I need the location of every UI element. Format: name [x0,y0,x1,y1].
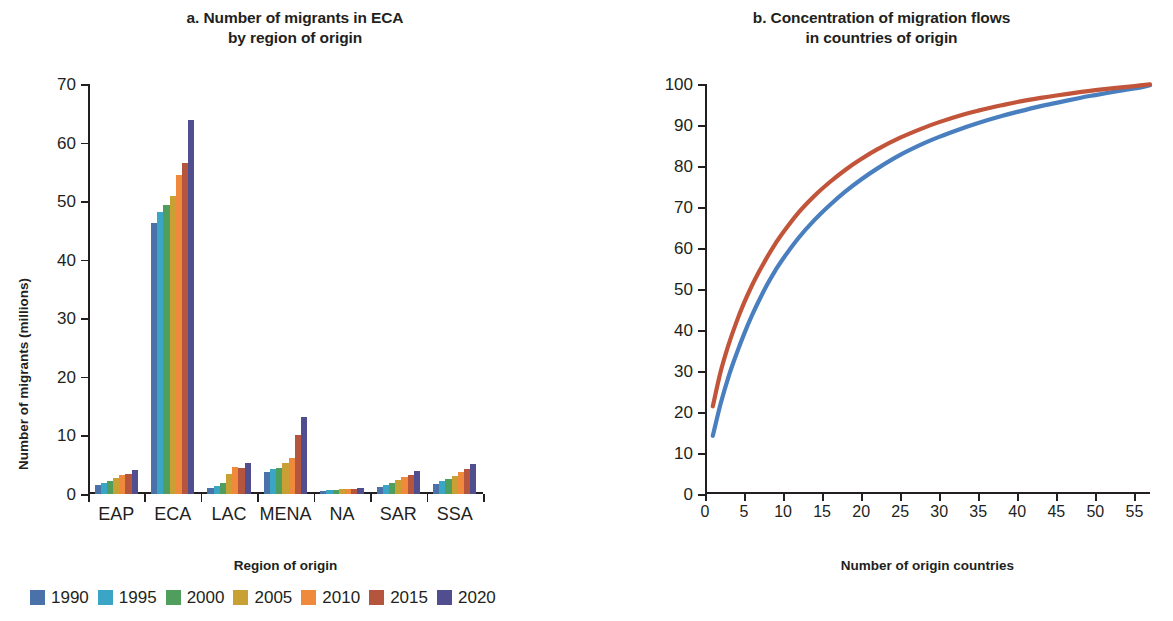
panel-a-bar-chart: a. Number of migrants in ECA by region o… [0,0,590,621]
panel-a-title-line2: by region of origin [0,28,590,48]
panel-b-x-tick [744,494,746,501]
panel-b-title-line1: b. Concentration of migration flows [753,9,1010,26]
panel-b-y-tick-label: 90 [674,117,693,134]
legend-label: 1995 [119,589,157,606]
panel-b-x-tick-label: 40 [1008,503,1026,520]
panel-b-x-tick-label: 20 [852,503,870,520]
legend-item-2005: 2005 [233,589,292,606]
panel-b-y-tick-label: 0 [684,486,693,503]
panel-b-x-axis-title: Number of origin countries [705,558,1150,573]
panel-a-y-tick-label: 20 [57,368,76,385]
panel-b-title-line2: in countries of origin [590,28,1173,48]
panel-b-y-tick [698,166,705,168]
panel-b-y-tick-label: 70 [674,199,693,216]
legend-label: 1990 [51,589,89,606]
panel-b-x-tick-label: 15 [813,503,831,520]
panel-b-y-tick [698,453,705,455]
panel-b-y-tick-label: 10 [674,445,693,462]
legend-label: 2010 [322,589,360,606]
panel-a-x-tick [427,494,429,502]
legend-item-1990: 1990 [30,589,89,606]
legend-swatch-icon [166,590,181,605]
line-series-2020 [713,84,1150,406]
bar-group-ssa [427,84,483,494]
panel-b-x-tick [783,494,785,501]
panel-b-x-tick [978,494,980,501]
panel-a-plot-area: 010203040506070 EAPECALACMENANASARSSA [88,84,483,494]
bar-lac-2020 [245,463,251,494]
panel-b-y-tick [698,207,705,209]
legend-swatch-icon [369,590,384,605]
panel-b-x-tick-label: 35 [969,503,987,520]
panel-a-x-tick [257,494,259,502]
panel-a-x-label-mena: MENA [259,504,311,525]
bar-eca-2020 [188,120,194,494]
panel-b-x-tick [1095,494,1097,501]
panel-b-y-tick-label: 40 [674,322,693,339]
panel-b-x-tick [1056,494,1058,501]
panel-b-title: b. Concentration of migration flows in c… [590,8,1173,48]
panel-b-y-tick [698,330,705,332]
panel-b-y-tick-label: 60 [674,240,693,257]
legend-label: 2000 [187,589,225,606]
panel-b-y-tick-label: 80 [674,158,693,175]
legend-swatch-icon [98,590,113,605]
legend-swatch-icon [233,590,248,605]
panel-b-y-tick-label: 30 [674,363,693,380]
panel-b-x-tick-label: 5 [740,503,749,520]
bar-eap-2020 [132,470,138,494]
bar-group-sar [370,84,426,494]
panel-a-bar-groups [88,84,483,494]
panel-b-x-tick-label: 30 [930,503,948,520]
line-series-1990 [713,85,1150,436]
bar-ssa-2020 [470,464,476,494]
panel-a-y-tick [81,435,88,437]
panel-a-y-tick-label: 50 [57,193,76,210]
panel-b-y-tick [698,289,705,291]
panel-b-x-tick [900,494,902,501]
panel-b-x-tick [705,494,707,501]
legend-item-1995: 1995 [98,589,157,606]
panel-a-y-tick [81,201,88,203]
panel-a-y-tick-label: 40 [57,251,76,268]
bar-group-eca [144,84,200,494]
bar-group-na [314,84,370,494]
panel-a-y-tick [81,84,88,86]
panel-b-x-tick [822,494,824,501]
panel-a-x-label-ssa: SSA [437,504,473,525]
panel-a-x-axis-title: Region of origin [88,558,483,573]
panel-b-y-tick-label: 20 [674,404,693,421]
bar-na-2020 [357,488,363,494]
panel-b-series-lines [705,84,1150,494]
panel-a-y-tick [81,377,88,379]
panel-a-y-tick-label: 60 [57,134,76,151]
panel-b-x-tick [1017,494,1019,501]
legend-swatch-icon [301,590,316,605]
panel-b-x-tick [1134,494,1136,501]
legend-item-2000: 2000 [166,589,225,606]
panel-a-x-tick [314,494,316,502]
bar-group-eap [88,84,144,494]
panel-a-y-axis-title: Number of migrants (millions) [16,278,31,470]
legend-label: 2005 [254,589,292,606]
panel-a-x-label-sar: SAR [380,504,417,525]
panel-b-y-tick [698,371,705,373]
legend-label: 2015 [390,589,428,606]
legend-swatch-icon [437,590,452,605]
panel-b-y-tick [698,84,705,86]
panel-a-y-tick-label: 0 [67,486,76,503]
legend-swatch-icon [30,590,45,605]
legend-item-2015: 2015 [369,589,428,606]
panel-b-y-tick [698,248,705,250]
panel-b-x-tick-label: 50 [1086,503,1104,520]
panel-a-y-tick [81,143,88,145]
panel-b-x-tick-label: 25 [891,503,909,520]
panel-a-x-label-eca: ECA [154,504,191,525]
panel-a-x-label-na: NA [329,504,354,525]
panel-b-x-tick-label: 0 [701,503,710,520]
legend-label: 2020 [458,589,496,606]
bar-group-lac [201,84,257,494]
bar-mena-2020 [301,417,307,494]
panel-a-x-tick [144,494,146,502]
panel-a-x-tick [483,494,485,502]
